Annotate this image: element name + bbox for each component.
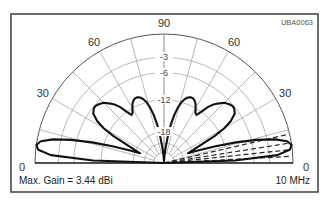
angle-label: 60 [88,36,100,48]
figure-code: UBA0063 [281,18,313,27]
angle-label: 30 [279,87,291,99]
frequency-label: 10 MHz [276,175,310,186]
angle-label: 30 [37,87,49,99]
db-ring-label: -18 [157,127,170,137]
db-ring-label: -3 [160,52,168,62]
angle-label: 60 [228,36,240,48]
angle-label: 0 [303,161,309,173]
db-ring-label: -6 [160,68,168,78]
db-ring-label: -12 [157,95,170,105]
angle-label: 0 [19,161,25,173]
angle-label: 90 [158,17,170,29]
elevation-pattern-chart: 030609060300 -3-6-12-18 UBA0063 Max. Gai… [0,0,327,203]
max-gain-label: Max. Gain = 3.44 dBi [19,175,113,186]
